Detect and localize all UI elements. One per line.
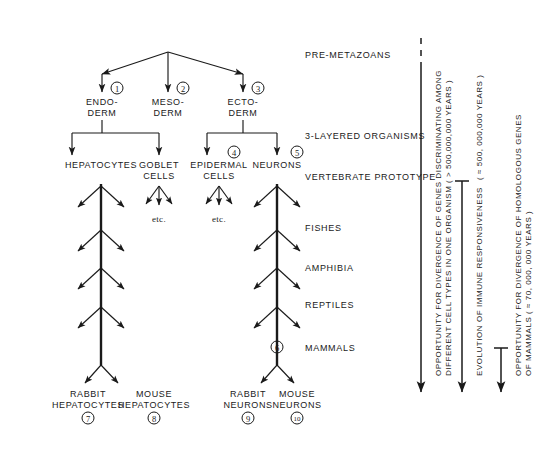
- cell-type-label-hepatocytes: HEPATOCYTES: [65, 160, 137, 171]
- diagram-lines: [0, 0, 546, 451]
- marker-9: 9: [242, 412, 255, 425]
- timescale-label-immune-responsiveness-line1: EVOLUTION OF IMMUNE RESPONSIVENESS: [475, 187, 485, 376]
- terminal-label-rabbit-hepatocytes: RABBIT HEPATOCYTES: [52, 389, 124, 410]
- stage-label-reptiles: REPTILES: [305, 300, 354, 310]
- marker-2: 2: [177, 82, 190, 95]
- stage-label-mammals: MAMMALS: [305, 343, 355, 353]
- stage-label-vertebrate-prototype: VERTEBRATE PROTOTYPE: [305, 172, 436, 182]
- timescale-label-immune-responsiveness-line2: ( ≈ 500, 000,000 YEARS ): [475, 75, 485, 181]
- cell-type-label-neurons: NEURONS: [252, 160, 301, 171]
- marker-6-mammals: 6: [271, 341, 284, 354]
- terminal-label-mouse-neurons: MOUSE NEURONS: [272, 389, 321, 410]
- timescale-label-gene-divergence-cell-types-line2: DIFFERENT CELL TYPES IN ONE ORGANISM ( >…: [444, 80, 454, 376]
- stage-label-amphibia: AMPHIBIA: [305, 263, 354, 273]
- stage-label-three-layered-organisms: 3-LAYERED ORGANISMS: [305, 131, 425, 141]
- figure-canvas: ENDO- DERM 1 MESO- DERM 2 ECTO- DERM 3 H…: [0, 0, 546, 451]
- terminal-label-rabbit-neurons: RABBIT NEURONS: [223, 389, 272, 410]
- cell-type-label-epidermal-cells: EPIDERMAL CELLS: [190, 160, 247, 181]
- stage-label-pre-metazoans: PRE-METAZOANS: [305, 50, 391, 60]
- marker-10: 10: [291, 412, 304, 425]
- timescale-label-homologous-genes-mammals-line2: OF MAMMALS ( ≈ 70, 000, 000 YEARS ): [524, 211, 534, 376]
- marker-1: 1: [111, 82, 124, 95]
- timescale-label-gene-divergence-cell-types-line1: OPPORTUNITY FOR DIVERGENCE OF GENES DISC…: [434, 70, 444, 376]
- stage-label-fishes: FISHES: [305, 223, 342, 233]
- germ-layer-label-mesoderm: MESO- DERM: [152, 97, 185, 118]
- etc-label-goblet: etc.: [152, 214, 166, 224]
- marker-7: 7: [82, 412, 95, 425]
- etc-label-epidermal: etc.: [212, 214, 226, 224]
- marker-5: 5: [291, 146, 304, 159]
- marker-3: 3: [252, 82, 265, 95]
- timescale-label-homologous-genes-mammals-line1: OPPORTUNITY FOR DIVERGENCE OF HOMOLOGOUS…: [514, 114, 524, 376]
- marker-4: 4: [228, 146, 241, 159]
- marker-8: 8: [148, 412, 161, 425]
- terminal-label-mouse-hepatocytes: MOUSE HEPATOCYTES: [118, 389, 190, 410]
- germ-layer-label-ectoderm: ECTO- DERM: [228, 97, 259, 118]
- cell-type-label-goblet-cells: GOBLET CELLS: [139, 160, 179, 181]
- germ-layer-label-endoderm: ENDO- DERM: [86, 97, 118, 118]
